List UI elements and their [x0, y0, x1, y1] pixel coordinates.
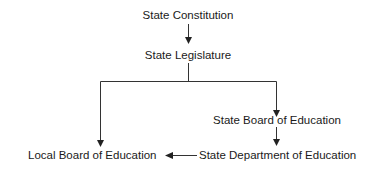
connector-layer — [0, 0, 384, 170]
node-state-legislature: State Legislature — [145, 48, 231, 62]
arrowhead-down-icon — [97, 140, 104, 147]
arrowhead-left-icon — [165, 152, 173, 159]
node-state-constitution: State Constitution — [143, 8, 234, 22]
node-state-department-of-education: State Department of Education — [199, 148, 356, 162]
arrowhead-down-icon — [273, 139, 280, 146]
node-local-board-of-education: Local Board of Education — [28, 148, 157, 162]
arrowhead-down-icon — [185, 37, 192, 44]
diagram-canvas: State Constitution State Legislature Sta… — [0, 0, 384, 170]
node-state-board-of-education: State Board of Education — [213, 113, 341, 127]
